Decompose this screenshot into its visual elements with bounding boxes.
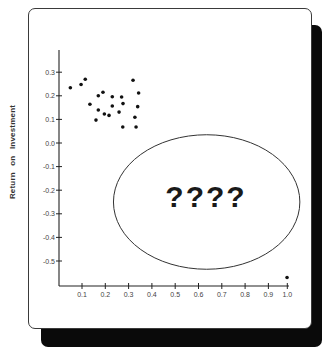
data-point <box>121 102 125 106</box>
data-points <box>69 77 289 279</box>
y-tick-label: -0.4 <box>43 234 55 241</box>
data-point <box>134 125 138 129</box>
y-tick-label: -0.2 <box>43 187 55 194</box>
data-point <box>83 77 87 81</box>
data-point <box>97 108 101 112</box>
x-tick-label: 0.3 <box>124 291 134 298</box>
y-tick-label: -0.1 <box>43 163 55 170</box>
data-point <box>131 78 135 82</box>
x-tick-label: 0.9 <box>264 291 274 298</box>
axes: 0.30.20.10.0-0.1-0.2-0.3-0.4-0.50.10.20.… <box>43 50 292 298</box>
data-point <box>88 102 92 106</box>
y-tick-label: -0.3 <box>43 210 55 217</box>
data-point <box>137 91 141 95</box>
x-tick-label: 0.6 <box>194 291 204 298</box>
y-tick-label: 0.0 <box>45 140 55 147</box>
data-point <box>107 114 111 118</box>
x-tick-label: 0.7 <box>217 291 227 298</box>
x-tick-label: 0.1 <box>77 291 87 298</box>
data-point <box>97 94 101 98</box>
data-point <box>285 276 289 280</box>
unknown-annotation: ???? <box>165 180 246 214</box>
data-point <box>103 112 107 116</box>
y-tick-label: 0.2 <box>45 92 55 99</box>
data-point <box>110 95 114 99</box>
data-point <box>94 118 98 122</box>
y-tick-label: -0.5 <box>43 258 55 265</box>
data-point <box>121 125 125 129</box>
x-tick-label: 0.8 <box>240 291 250 298</box>
data-point <box>133 115 137 119</box>
data-point <box>117 110 121 114</box>
data-point <box>101 90 105 94</box>
data-point <box>79 83 83 87</box>
scatter-plot: 0.30.20.10.0-0.1-0.2-0.3-0.4-0.50.10.20.… <box>0 0 326 360</box>
data-point <box>110 104 114 108</box>
data-point <box>69 86 73 90</box>
y-tick-label: 0.3 <box>45 69 55 76</box>
data-point <box>120 95 124 99</box>
x-tick-label: 0.5 <box>170 291 180 298</box>
x-tick-label: 0.2 <box>100 291 110 298</box>
data-point <box>136 105 140 109</box>
y-tick-label: 0.1 <box>45 116 55 123</box>
x-tick-label: 1.0 <box>282 291 292 298</box>
x-tick-label: 0.4 <box>147 291 157 298</box>
